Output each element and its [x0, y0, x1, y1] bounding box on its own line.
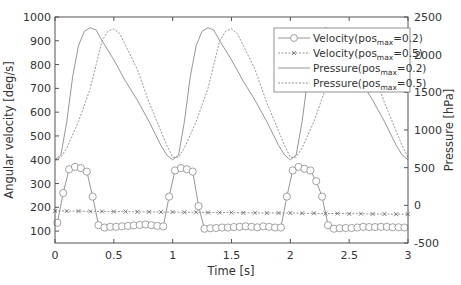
y2-tick-label: 2500	[414, 11, 442, 24]
y-tick-label: 700	[30, 82, 51, 95]
y-tick-label: 100	[30, 225, 51, 238]
left-y-axis: 1002003004005006007008009001000	[23, 11, 59, 238]
left-y-axis-label: Angular velocity [deg/s]	[2, 61, 16, 198]
x-tick-label: 0.5	[105, 249, 123, 262]
y-tick-label: 400	[30, 154, 51, 167]
y-tick-label: 800	[30, 59, 51, 72]
series-velocity-pos-max-0-5-	[53, 209, 410, 216]
y-tick-label: 600	[30, 106, 51, 119]
right-y-axis-label: Pressure [hPa]	[442, 89, 456, 172]
x-axis-label: Time [s]	[207, 264, 255, 278]
y2-tick-label: 500	[414, 162, 435, 175]
x-tick-label: 2	[287, 249, 294, 262]
series-velocity-pos-max-0-2-	[54, 163, 408, 232]
legend: Velocity(posmax=0.2)Velocity(posmax=0.5)…	[274, 28, 426, 92]
x-tick-label: 1	[169, 249, 176, 262]
y-tick-label: 500	[30, 130, 51, 143]
y-tick-label: 1000	[23, 11, 51, 24]
dual-axis-line-chart: 00.511.522.53 10020030040050060070080090…	[0, 0, 461, 285]
y-tick-label: 200	[30, 201, 51, 214]
y2-tick-label: 0	[414, 199, 421, 212]
y-tick-label: 900	[30, 35, 51, 48]
x-tick-label: 2.5	[340, 249, 358, 262]
y2-tick-label: -500	[414, 237, 439, 250]
x-tick-label: 1.5	[223, 249, 241, 262]
x-tick-label: 3	[405, 249, 412, 262]
y-tick-label: 300	[30, 178, 51, 191]
y2-tick-label: 1000	[414, 124, 442, 137]
x-tick-label: 0	[52, 249, 59, 262]
